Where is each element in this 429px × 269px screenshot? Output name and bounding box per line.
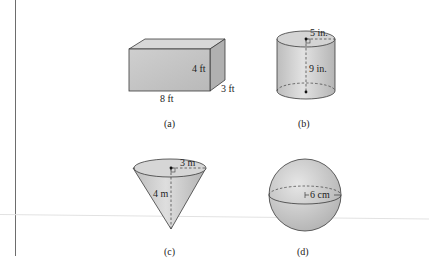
panel-a-box: 4 ft 3 ft 8 ft (a) [129, 39, 235, 130]
panel-d-sphere: 6 cm (d) [269, 159, 341, 258]
cone-height-label: 4 m [153, 188, 169, 199]
caption-a: (a) [164, 118, 175, 130]
cylinder-bottom-center-dot [305, 91, 308, 94]
caption-b: (b) [298, 118, 310, 130]
caption-d: (d) [297, 246, 309, 258]
cylinder-top-center-dot [305, 38, 308, 41]
geometric-solids-figure: 4 ft 3 ft 8 ft (a) 5 in. 9 in. (b) 3 m 4… [0, 0, 429, 269]
box-top-face [129, 39, 225, 49]
box-length-label: 8 ft [160, 93, 174, 104]
cylinder-height-label: 9 in. [309, 63, 327, 74]
panel-b-cylinder: 5 in. 9 in. (b) [277, 27, 335, 130]
cone-radius-label: 3 m [180, 157, 196, 168]
caption-c: (c) [164, 246, 175, 258]
sphere-radius-label: 6 cm [310, 189, 330, 200]
cone-top-center-dot [170, 167, 173, 170]
box-depth-label: 3 ft [221, 83, 235, 94]
panel-c-cone: 3 m 4 m (c) [133, 157, 206, 258]
cylinder-radius-label: 5 in. [310, 27, 328, 38]
box-height-label: 4 ft [192, 63, 206, 74]
